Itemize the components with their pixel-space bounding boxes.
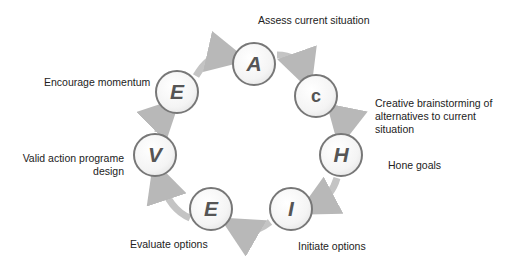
label-evaluate: Evaluate options bbox=[130, 238, 208, 251]
step-circle-i: I bbox=[269, 187, 313, 231]
step-letter: I bbox=[288, 197, 294, 221]
step-circle-h: H bbox=[319, 133, 363, 177]
label-valid: Valid action programe design bbox=[20, 152, 124, 178]
step-circle-a: A bbox=[232, 42, 276, 86]
step-letter: C bbox=[311, 86, 321, 107]
step-circle-e-evaluate: E bbox=[189, 187, 233, 231]
label-hone: Hone goals bbox=[388, 159, 441, 172]
step-letter: H bbox=[333, 143, 348, 167]
step-circle-c: C bbox=[294, 74, 338, 118]
step-letter: E bbox=[170, 80, 184, 104]
step-letter: V bbox=[148, 143, 162, 167]
step-letter: A bbox=[246, 52, 261, 76]
step-circle-v: V bbox=[133, 133, 177, 177]
step-letter: E bbox=[204, 197, 218, 221]
label-creative: Creative brainstorming of alternatives t… bbox=[375, 97, 505, 136]
label-assess: Assess current situation bbox=[258, 14, 369, 27]
label-initiate: Initiate options bbox=[298, 240, 366, 253]
label-encourage: Encourage momentum bbox=[44, 76, 150, 89]
step-circle-e-encourage: E bbox=[155, 70, 199, 114]
